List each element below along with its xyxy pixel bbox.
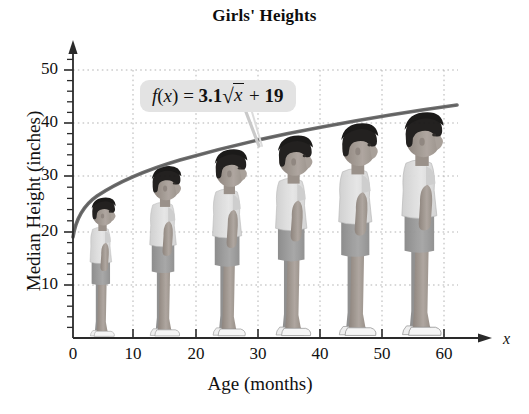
equation-plus: + [249,85,260,106]
equation-constant: 19 [265,85,284,106]
equation-radicand: x [234,84,242,105]
equation-equals: = [183,85,194,106]
chart-figure: Girls' Heights [0,0,529,414]
x-tick-label-20: 20 [181,344,211,364]
function-curve [73,105,457,237]
x-axis-variable: x [503,330,510,348]
equation-coefficient: 3.1 [199,85,223,106]
equation-variable: x [164,85,172,106]
x-tick-label-40: 40 [305,344,335,364]
x-tick-label-10: 10 [118,344,148,364]
x-axis-title: Age (months) [60,373,460,395]
y-axis-title: Median Height (inches) [23,71,45,331]
x-tick-label-50: 50 [367,344,397,364]
x-tick-label-0: 0 [58,344,88,364]
children-illustration [90,112,444,336]
equation-paren-close: ) [172,85,178,106]
x-tick-label-30: 30 [243,344,273,364]
x-tick-label-60: 60 [429,344,459,364]
equation-annotation: f(x) = 3.1√x + 19 [140,80,296,112]
